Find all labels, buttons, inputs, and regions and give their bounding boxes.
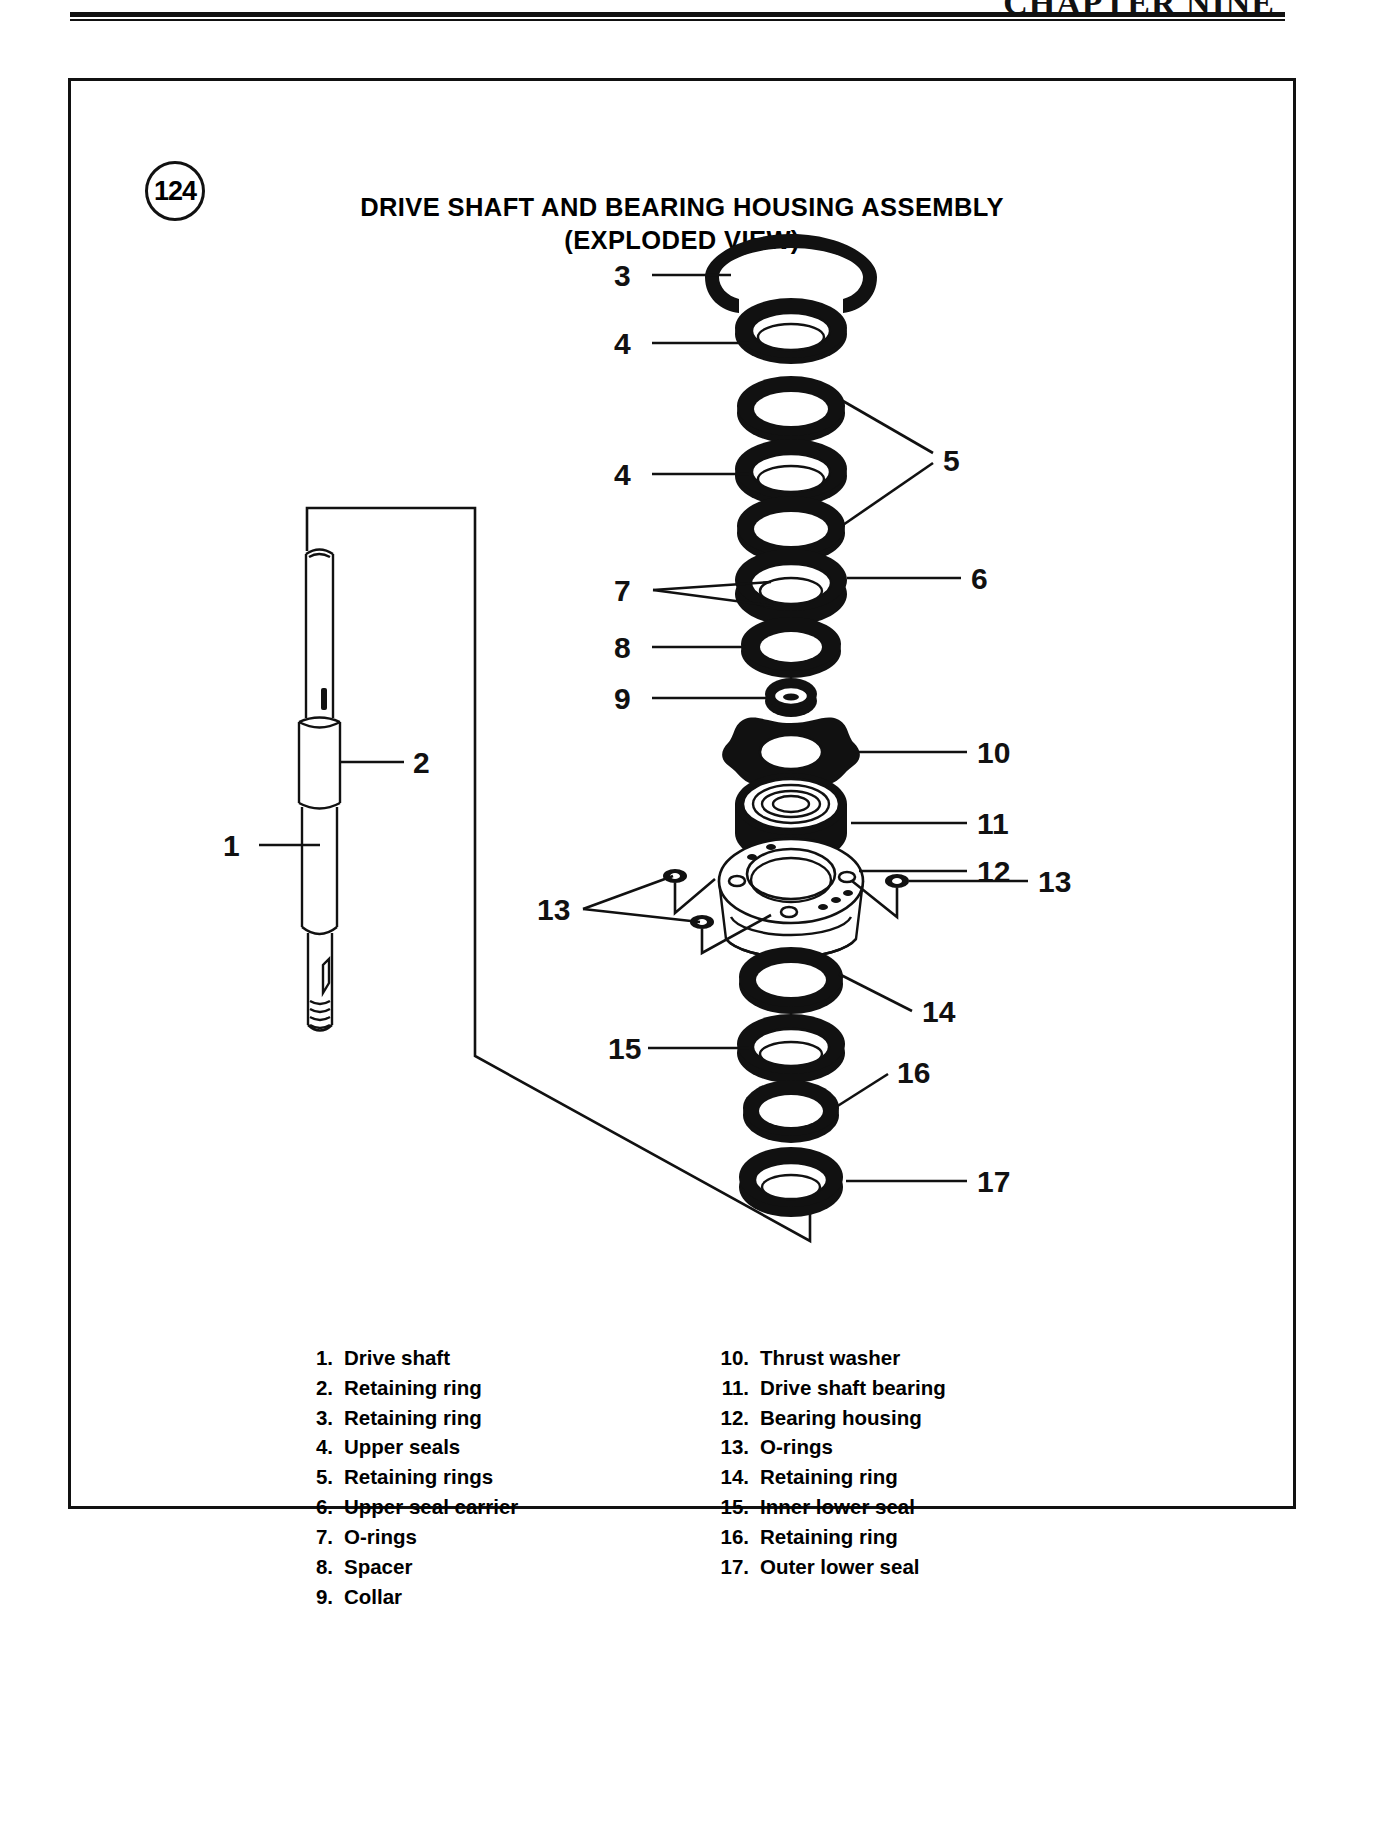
callout-12-number: 12	[977, 855, 1010, 888]
legend-label: Collar	[344, 1582, 402, 1612]
part-retaining-ring-5a	[737, 376, 845, 443]
callout-9: 9	[614, 682, 768, 715]
legend-label: Retaining ring	[760, 1522, 898, 1552]
callout-13a-number: 13	[537, 893, 570, 926]
callout-13b-number: 13	[1038, 865, 1071, 898]
list-item: 13. O-rings	[711, 1432, 1111, 1462]
legend-number: 12.	[711, 1403, 749, 1433]
callout-5: 5	[843, 401, 960, 525]
legend-label: Drive shaft	[344, 1343, 450, 1373]
callout-5-number: 5	[943, 444, 960, 477]
legend-label: Drive shaft bearing	[760, 1373, 946, 1403]
callout-11: 11	[851, 807, 1009, 840]
list-item: 15. Inner lower seal	[711, 1492, 1111, 1522]
callout-8: 8	[614, 631, 746, 664]
legend-number: 16.	[711, 1522, 749, 1552]
callout-10: 10	[855, 736, 1010, 769]
parts-legend: 1. Drive shaft 2. Retaining ring 3. Reta…	[71, 1343, 1293, 1611]
part-spacer-8	[741, 617, 841, 678]
legend-label: Retaining ring	[344, 1373, 482, 1403]
part-upper-seal-4a	[735, 298, 847, 364]
legend-number: 8.	[307, 1552, 333, 1582]
callout-15-number: 15	[608, 1032, 641, 1065]
part-upper-seal-carrier-6	[735, 549, 847, 625]
legend-label: Thrust washer	[760, 1343, 900, 1373]
callout-14-number: 14	[922, 995, 956, 1028]
header-rule-thin	[70, 19, 1285, 21]
legend-number: 14.	[711, 1462, 749, 1492]
callout-1-number: 1	[223, 829, 240, 862]
callout-1: 1	[223, 829, 320, 862]
legend-label: Upper seals	[344, 1432, 460, 1462]
legend-label: O-rings	[344, 1522, 417, 1552]
list-item: 1. Drive shaft	[307, 1343, 687, 1373]
parts-legend-column-left: 1. Drive shaft 2. Retaining ring 3. Reta…	[307, 1343, 687, 1611]
legend-label: Inner lower seal	[760, 1492, 915, 1522]
callout-4a-number: 4	[614, 327, 631, 360]
callout-14: 14	[839, 974, 956, 1028]
callout-4b: 4	[614, 458, 749, 491]
legend-number: 3.	[307, 1403, 333, 1433]
exploded-view-artwork: 1 2 3 4	[71, 81, 1293, 1506]
legend-number: 17.	[711, 1552, 749, 1582]
callout-11-number: 11	[977, 807, 1009, 840]
callout-3-number: 3	[614, 259, 631, 292]
part-outer-lower-seal-17	[739, 1147, 843, 1217]
list-item: 4. Upper seals	[307, 1432, 687, 1462]
chapter-header: CHAPTER NINE	[0, 0, 1393, 30]
legend-number: 7.	[307, 1522, 333, 1552]
list-item: 14. Retaining ring	[711, 1462, 1111, 1492]
list-item: 17. Outer lower seal	[711, 1552, 1111, 1582]
callout-13b: 13	[852, 865, 1071, 917]
callout-2-number: 2	[413, 746, 430, 779]
header-rule-thick	[70, 12, 1285, 17]
legend-number: 2.	[307, 1373, 333, 1403]
list-item: 11. Drive shaft bearing	[711, 1373, 1111, 1403]
callout-15: 15	[608, 1032, 749, 1065]
legend-number: 4.	[307, 1432, 333, 1462]
part-retaining-ring-16	[743, 1080, 839, 1143]
legend-number: 11.	[711, 1373, 749, 1403]
part-collar-9	[765, 678, 817, 717]
parts-legend-column-right: 10. Thrust washer 11. Drive shaft bearin…	[711, 1343, 1111, 1611]
legend-number: 10.	[711, 1343, 749, 1373]
list-item: 2. Retaining ring	[307, 1373, 687, 1403]
callout-6-number: 6	[971, 562, 988, 595]
callout-9-number: 9	[614, 682, 631, 715]
callout-4a: 4	[614, 327, 749, 360]
legend-label: Bearing housing	[760, 1403, 922, 1433]
callout-17: 17	[846, 1165, 1010, 1198]
callout-16-number: 16	[897, 1056, 930, 1089]
callout-4b-number: 4	[614, 458, 631, 491]
legend-number: 1.	[307, 1343, 333, 1373]
list-item: 6. Upper seal carrier	[307, 1492, 687, 1522]
legend-label: Retaining ring	[760, 1462, 898, 1492]
figure-frame: 124 DRIVE SHAFT AND BEARING HOUSING ASSE…	[68, 78, 1296, 1509]
legend-number: 6.	[307, 1492, 333, 1522]
part-bearing-housing-12	[719, 839, 863, 957]
legend-label: Spacer	[344, 1552, 412, 1582]
callout-10-number: 10	[977, 736, 1010, 769]
callout-17-number: 17	[977, 1165, 1010, 1198]
callout-16: 16	[836, 1056, 930, 1107]
part-retaining-ring-14	[739, 947, 843, 1014]
callout-6: 6	[847, 562, 988, 595]
legend-label: Retaining ring	[344, 1403, 482, 1433]
callout-7-number: 7	[614, 574, 631, 607]
list-item: 5. Retaining rings	[307, 1462, 687, 1492]
list-item: 12. Bearing housing	[711, 1403, 1111, 1433]
legend-label: O-rings	[760, 1432, 833, 1462]
part-upper-seal-4b	[735, 439, 847, 506]
callout-2: 2	[340, 746, 430, 779]
part-inner-lower-seal-15	[737, 1014, 845, 1083]
legend-label: Retaining rings	[344, 1462, 493, 1492]
legend-number: 9.	[307, 1582, 333, 1612]
part-drive-shaft	[299, 550, 340, 1031]
list-item: 3. Retaining ring	[307, 1403, 687, 1433]
list-item: 10. Thrust washer	[711, 1343, 1111, 1373]
legend-number: 13.	[711, 1432, 749, 1462]
list-item: 9. Collar	[307, 1582, 687, 1612]
list-item: 16. Retaining ring	[711, 1522, 1111, 1552]
list-item: 7. O-rings	[307, 1522, 687, 1552]
legend-number: 15.	[711, 1492, 749, 1522]
